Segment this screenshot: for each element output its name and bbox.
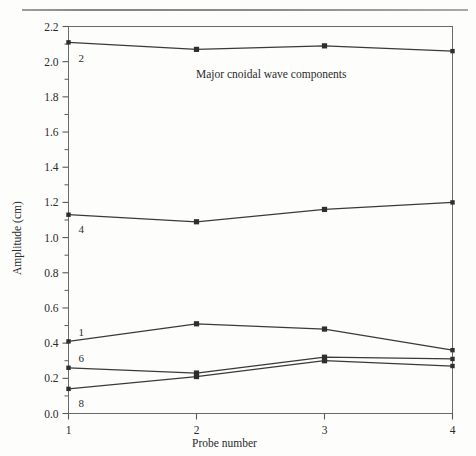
y-tick-label: 0.8 (44, 267, 59, 279)
data-point (66, 387, 70, 391)
data-point (450, 357, 454, 361)
data-point (322, 207, 327, 212)
y-tick-label: 1.8 (44, 91, 59, 103)
y-tick-label: 1.6 (44, 126, 59, 138)
series-label-group: 24168 (79, 52, 85, 409)
data-point (194, 219, 199, 224)
y-tick-label: 0.6 (44, 302, 59, 314)
data-point (450, 49, 454, 53)
series-line-4 (69, 202, 453, 221)
line-chart: 0.00.20.40.60.81.01.21.41.61.82.02.2 123… (0, 0, 476, 456)
y-tick-label: 0.2 (44, 372, 59, 384)
data-point (450, 200, 454, 204)
x-tick-label: 2 (194, 424, 200, 436)
y-axis-title: Amplitude (cm) (11, 201, 24, 275)
series-line-1 (69, 324, 453, 350)
y-tick-label: 2.0 (44, 56, 59, 68)
x-tick-label: 4 (450, 424, 456, 436)
data-point (66, 339, 70, 343)
series-label-8: 8 (79, 397, 85, 409)
series-label-2: 2 (79, 52, 85, 64)
data-point (194, 321, 199, 326)
data-point (322, 43, 327, 48)
plot-frame (69, 27, 453, 414)
series-line-2 (69, 42, 453, 51)
x-axis-title: Probe number (192, 437, 257, 449)
y-tick-label: 1.0 (44, 232, 59, 244)
y-tick-label: 0.0 (44, 408, 59, 420)
data-point (194, 374, 199, 379)
series-label-1: 1 (79, 326, 85, 338)
series-label-6: 6 (79, 352, 85, 364)
data-point (194, 47, 199, 52)
data-point (66, 40, 70, 44)
chart-title: Major cnoidal wave components (196, 68, 347, 81)
x-axis: 1234 (66, 414, 456, 436)
chart-page: 0.00.20.40.60.81.01.21.41.61.82.02.2 123… (0, 0, 476, 456)
y-tick-label: 0.4 (44, 337, 59, 349)
data-point (66, 366, 70, 370)
series-line-6 (69, 357, 453, 373)
data-point (450, 348, 454, 352)
data-point (66, 213, 70, 217)
series-label-4: 4 (79, 223, 85, 235)
chart-svg: 0.00.20.40.60.81.01.21.41.61.82.02.2 123… (0, 0, 476, 456)
y-tick-label: 1.2 (44, 196, 59, 208)
series-group (66, 40, 454, 391)
x-tick-label: 1 (66, 424, 72, 436)
data-point (322, 358, 327, 363)
y-tick-label: 2.2 (44, 21, 59, 33)
data-point (322, 326, 327, 331)
data-point (450, 364, 454, 368)
x-tick-label: 3 (322, 424, 328, 436)
y-axis: 0.00.20.40.60.81.01.21.41.61.82.02.2 (44, 21, 68, 420)
y-tick-label: 1.4 (44, 161, 59, 173)
